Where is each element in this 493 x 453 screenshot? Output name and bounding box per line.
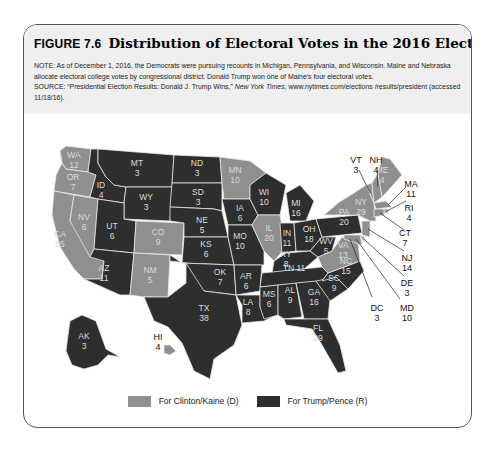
state-label-oh: OH18: [303, 224, 316, 244]
legend-dem-label: For Clinton/Kaine (D): [159, 396, 239, 406]
state-ak: [66, 315, 120, 369]
state-label-ri: RI4: [405, 203, 414, 223]
state-label-nj: NJ14: [402, 253, 413, 273]
state-label-tn: TN 11: [283, 263, 306, 273]
state-label-tx: TX38: [199, 303, 210, 323]
source-publication: New York Times: [235, 83, 285, 90]
state-label-ma: MA11: [404, 179, 418, 199]
figure-card: FIGURE 7.6 Distribution of Electoral Vot…: [23, 24, 472, 428]
state-label-ga: GA16: [308, 287, 321, 307]
state-label-hi: HI4: [154, 332, 163, 352]
state-ma: [374, 201, 392, 209]
state-label-md: MD10: [400, 303, 414, 323]
us-electoral-map: WA12OR7CA55NV6ID4MT3WY3UT6AZ11CO9NM5ND3S…: [24, 114, 471, 384]
state-label-az: AZ11: [99, 263, 110, 283]
state-label-vt: VT3: [350, 155, 362, 175]
state-label-ca: CA55: [54, 229, 66, 249]
figure-label: FIGURE 7.6: [34, 37, 101, 51]
rep-swatch: [257, 396, 280, 407]
state-label-de: DE3: [401, 278, 414, 298]
state-label-va: VA13: [338, 240, 349, 260]
state-ct: [374, 209, 384, 217]
figure-title-line: FIGURE 7.6 Distribution of Electoral Vot…: [34, 34, 461, 53]
state-label-mn: MN10: [228, 165, 241, 185]
state-label-dc: DC3: [371, 303, 384, 323]
source-prefix: SOURCE: “Presidential Election Results: …: [34, 83, 235, 90]
state-label-ny: NY29: [355, 197, 367, 217]
legend-item-dem: For Clinton/Kaine (D): [128, 396, 239, 407]
state-hi: [164, 345, 176, 355]
state-label-ct: CT7: [399, 228, 411, 248]
state-label-il: IL20: [264, 223, 274, 243]
figure-title: Distribution of Electoral Votes in the 2…: [108, 35, 472, 51]
legend-item-rep: For Trump/Pence (R): [257, 396, 368, 407]
figure-header: FIGURE 7.6 Distribution of Electoral Vot…: [24, 25, 471, 114]
state-label-pa: PA20: [339, 207, 350, 227]
legend-rep-label: For Trump/Pence (R): [288, 396, 368, 406]
state-label-wi: WI10: [259, 187, 269, 207]
figure-source: SOURCE: “Presidential Election Results: …: [34, 82, 461, 103]
state-nj: [362, 221, 370, 237]
state-label-mi: MI16: [291, 198, 301, 218]
dem-swatch: [128, 396, 151, 407]
figure-note: NOTE: As of December 1, 2016, the Democr…: [34, 61, 461, 82]
state-label-fl: FL29: [313, 323, 323, 343]
map-legend: For Clinton/Kaine (D) For Trump/Pence (R…: [24, 391, 471, 411]
state-label-in: IN11: [283, 228, 292, 248]
